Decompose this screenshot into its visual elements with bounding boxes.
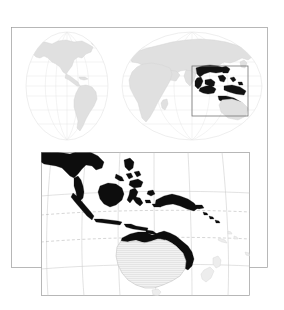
map-figure-svg <box>0 0 284 310</box>
regional-detail-panel <box>41 151 263 296</box>
map-figure <box>0 0 284 310</box>
western-globe-contents <box>26 32 108 140</box>
land-maluku-small <box>145 200 151 203</box>
western-hemisphere-globe <box>26 32 108 140</box>
